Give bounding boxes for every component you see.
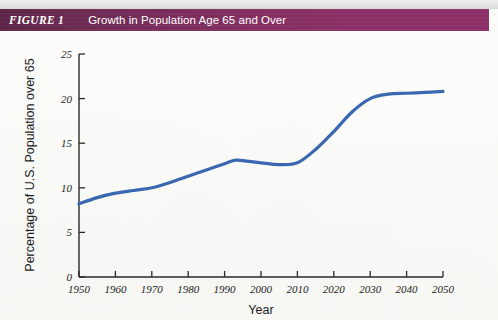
y-axis-tick-labels: 0510152025 [61,48,73,283]
x-tick-label-2030: 2030 [359,283,382,295]
x-tick-label-1960: 1960 [104,283,127,295]
x-axis-ticks [79,271,443,277]
x-tick-label-2050: 2050 [432,283,455,295]
y-tick-label-20: 20 [61,93,73,105]
x-tick-label-1970: 1970 [141,283,164,295]
figure-number-label: FIGURE 1 [9,14,64,26]
x-tick-label-2000: 2000 [250,283,273,295]
page-top-strip [0,0,498,9]
y-tick-label-10: 10 [61,182,73,194]
y-tick-label-25: 25 [61,48,73,60]
x-tick-label-1950: 1950 [68,283,91,295]
data-series-line [79,91,443,203]
x-tick-label-2010: 2010 [286,283,309,295]
figure-title: Growth in Population Age 65 and Over [88,14,286,26]
y-axis-title: Percentage of U.S. Population over 65 [23,58,37,271]
y-axis-ticks [79,54,85,277]
x-tick-label-2020: 2020 [323,283,346,295]
chart-container: 0510152025 19501960197019801990200020102… [0,31,498,320]
figure-header-banner: FIGURE 1 Growth in Population Age 65 and… [0,9,489,31]
x-tick-label-2040: 2040 [396,283,419,295]
figure-page: FIGURE 1 Growth in Population Age 65 and… [0,0,498,320]
x-axis-tick-labels: 1950196019701980199020002010202020302040… [68,283,455,295]
x-tick-label-1990: 1990 [214,283,237,295]
y-tick-label-5: 5 [67,226,73,238]
x-axis-title: Year [248,303,273,317]
x-tick-label-1980: 1980 [177,283,200,295]
y-tick-label-15: 15 [61,137,73,149]
line-chart: 0510152025 19501960197019801990200020102… [0,31,498,320]
y-tick-label-0: 0 [67,271,73,283]
